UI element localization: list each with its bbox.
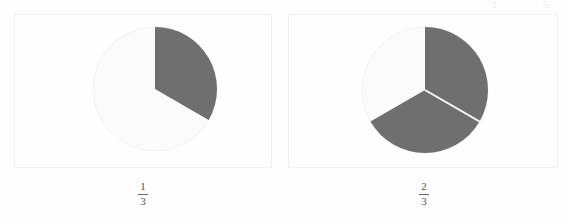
- fraction-figure-row: 1323: [0, 0, 568, 223]
- pie-frame-two-thirds: [288, 14, 558, 168]
- pie-frame-one-third: [14, 14, 272, 168]
- fraction-numerator: 1: [138, 181, 148, 193]
- pie-chart-one-third: [15, 15, 273, 169]
- fraction-label-two-thirds: 23: [404, 181, 444, 208]
- fraction-denominator: 3: [419, 196, 429, 208]
- fraction-stack: 23: [419, 181, 429, 208]
- fraction-denominator: 3: [138, 196, 148, 208]
- figure-one-third: 13: [14, 14, 272, 168]
- figure-two-thirds: 23: [288, 14, 558, 168]
- fraction-numerator: 2: [419, 181, 429, 193]
- pie-chart-two-thirds: [289, 15, 559, 169]
- fraction-stack: 13: [138, 181, 148, 208]
- fraction-label-one-third: 13: [123, 181, 163, 208]
